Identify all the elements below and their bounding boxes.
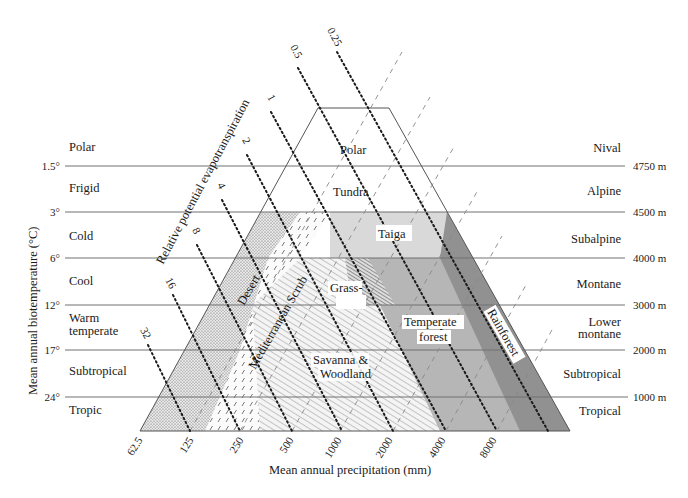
svg-text:Subtropical: Subtropical [69, 364, 127, 378]
svg-text:4: 4 [215, 180, 228, 191]
svg-text:Frigid: Frigid [69, 181, 100, 195]
x-axis-label: Mean annual precipitation (mm) [269, 463, 431, 477]
svg-text:16: 16 [163, 275, 179, 291]
svg-text:0.5: 0.5 [288, 42, 305, 60]
svg-text:2000 m: 2000 m [633, 344, 667, 356]
temperature-tick-labels: 1.5° 3° 6° 12° 17° 24° [42, 160, 60, 403]
svg-text:Savanna &: Savanna & [313, 353, 368, 367]
svg-text:1000 m: 1000 m [633, 391, 667, 403]
svg-text:8000: 8000 [477, 434, 499, 459]
svg-text:Grass-: Grass- [330, 281, 363, 295]
svg-text:temperate: temperate [69, 324, 119, 338]
svg-text:500: 500 [277, 434, 296, 455]
svg-text:125: 125 [177, 434, 196, 455]
svg-text:Taiga: Taiga [378, 227, 406, 241]
svg-text:2000: 2000 [373, 434, 395, 459]
svg-text:Cold: Cold [69, 229, 94, 243]
svg-text:8: 8 [190, 225, 203, 236]
svg-text:250: 250 [227, 434, 246, 455]
svg-text:6°: 6° [50, 252, 60, 264]
svg-text:4500 m: 4500 m [633, 206, 667, 218]
svg-text:Nival: Nival [593, 141, 621, 155]
svg-text:12°: 12° [45, 299, 60, 311]
svg-text:2: 2 [240, 135, 253, 145]
svg-text:1.5°: 1.5° [42, 160, 60, 172]
pet-axis-title: Relative potential evapotranspiration [153, 96, 252, 266]
svg-text:3°: 3° [50, 206, 60, 218]
life-zone-diagram: 0.25 0.5 1 2 4 8 16 32 Relative potentia… [0, 0, 688, 498]
svg-text:24°: 24° [45, 391, 60, 403]
svg-text:4750 m: 4750 m [633, 160, 667, 172]
svg-text:forest: forest [419, 330, 448, 344]
svg-text:Woodland: Woodland [320, 367, 372, 381]
svg-text:0.25: 0.25 [325, 25, 345, 48]
svg-text:Temperate: Temperate [404, 315, 457, 329]
latitudinal-region-labels: Polar Frigid Cold Cool Warm temperate Su… [69, 140, 127, 417]
svg-text:Montane: Montane [577, 277, 622, 291]
svg-text:Tundra: Tundra [333, 185, 369, 199]
svg-text:Polar: Polar [340, 143, 367, 157]
elevation-tick-labels: 4750 m 4500 m 4000 m 3000 m 2000 m 1000 … [633, 160, 667, 403]
svg-text:1: 1 [265, 92, 278, 102]
y-axis-label: Mean annual biotemperature (°C) [26, 227, 40, 395]
svg-text:Tropic: Tropic [69, 403, 102, 417]
svg-text:1000: 1000 [322, 434, 344, 459]
svg-text:Alpine: Alpine [587, 184, 621, 198]
svg-text:Warm: Warm [69, 311, 100, 325]
svg-text:4000: 4000 [426, 434, 448, 459]
svg-text:Polar: Polar [69, 140, 96, 154]
svg-text:3000 m: 3000 m [633, 299, 667, 311]
precipitation-tick-labels: 62.5 125 250 500 1000 2000 4000 8000 [124, 434, 499, 459]
svg-text:4000 m: 4000 m [633, 252, 667, 264]
svg-text:Subtropical: Subtropical [563, 367, 621, 381]
svg-text:Tropical: Tropical [579, 404, 621, 418]
svg-text:Cool: Cool [69, 274, 94, 288]
svg-text:Subalpine: Subalpine [571, 232, 621, 246]
svg-text:17°: 17° [45, 344, 60, 356]
svg-text:montane: montane [578, 327, 621, 341]
altitudinal-belt-labels: Nival Alpine Subalpine Montane Lower mon… [563, 141, 621, 418]
svg-text:32: 32 [138, 325, 154, 340]
svg-text:62.5: 62.5 [124, 434, 145, 457]
